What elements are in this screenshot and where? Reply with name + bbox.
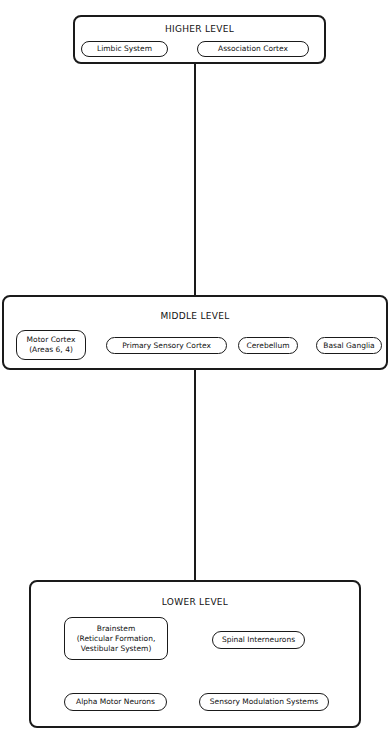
lower-level-title: LOWER LEVEL: [31, 597, 359, 607]
connector-higher-middle: [194, 63, 196, 296]
higher-level-box: HIGHER LEVEL Limbic System Association C…: [73, 15, 326, 64]
node-limbic-system: Limbic System: [81, 41, 168, 57]
connector-middle-lower: [194, 369, 196, 581]
node-brainstem: Brainstem (Reticular Formation, Vestibul…: [64, 617, 168, 660]
node-basal-ganglia: Basal Ganglia: [316, 337, 382, 354]
node-spinal-interneurons: Spinal Interneurons: [212, 631, 305, 649]
node-cerebellum: Cerebellum: [238, 337, 298, 354]
middle-level-box: MIDDLE LEVEL Motor Cortex (Areas 6, 4) P…: [2, 295, 388, 370]
node-primary-sensory-cortex: Primary Sensory Cortex: [106, 337, 227, 354]
node-sensory-modulation-systems: Sensory Modulation Systems: [199, 693, 329, 711]
middle-level-title: MIDDLE LEVEL: [4, 311, 386, 321]
higher-level-title: HIGHER LEVEL: [75, 24, 324, 34]
node-alpha-motor-neurons: Alpha Motor Neurons: [64, 693, 167, 711]
lower-level-box: LOWER LEVEL Brainstem (Reticular Formati…: [29, 580, 361, 728]
node-association-cortex: Association Cortex: [197, 41, 309, 57]
node-motor-cortex: Motor Cortex (Areas 6, 4): [16, 330, 86, 360]
